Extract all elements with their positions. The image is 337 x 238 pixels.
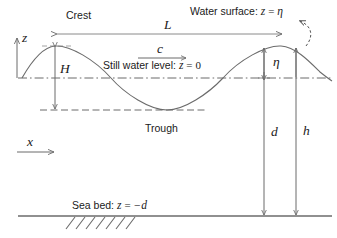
- z-axis-label: z: [22, 31, 27, 45]
- wave-height-label: H: [60, 62, 70, 76]
- still-water-eq: =: [186, 59, 192, 71]
- crest-label: Crest: [66, 10, 91, 21]
- still-water-prefix: Still water level:: [103, 59, 176, 71]
- wavelength-label: L: [164, 18, 172, 32]
- water-surface-var: z: [261, 5, 265, 17]
- wave-definition-diagram: Crest Trough L c H η d h z x Water surfa…: [0, 0, 337, 238]
- x-axis-label: x: [27, 135, 33, 149]
- eta-label: η: [273, 55, 280, 69]
- sea-bed-eq: =: [124, 199, 130, 211]
- sea-bed-prefix: Sea bed:: [72, 199, 114, 211]
- depth-d-label: d: [271, 125, 278, 139]
- still-water-level-label: Still water level: z = 0: [103, 60, 201, 72]
- sea-bed-label: Sea bed: z = −d: [72, 200, 147, 212]
- still-water-val: 0: [195, 59, 201, 71]
- water-surface-prefix: Water surface:: [190, 5, 258, 17]
- sea-bed-var: z: [117, 199, 121, 211]
- diagram-canvas: [0, 0, 337, 238]
- still-water-var: z: [179, 59, 183, 71]
- water-surface-label: Water surface: z = η: [190, 6, 283, 18]
- sea-bed-val: −d: [134, 199, 148, 211]
- water-surface-val: η: [277, 5, 283, 17]
- water-surface-eq: =: [268, 5, 274, 17]
- depth-h-label: h: [303, 124, 310, 138]
- water-surface-pointer-arrow: [300, 21, 311, 46]
- trough-label: Trough: [145, 123, 178, 134]
- celerity-label: c: [157, 42, 163, 56]
- sea-bed-hatching: [66, 217, 135, 229]
